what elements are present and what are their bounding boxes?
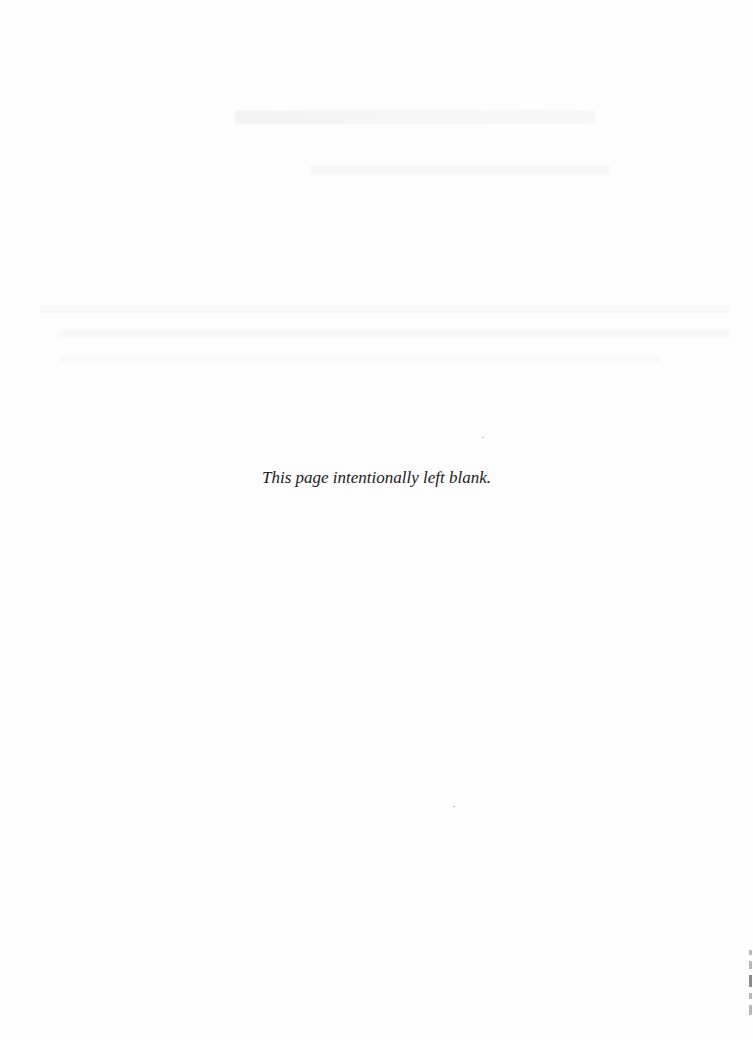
bleed-through-text: [40, 305, 730, 313]
intentionally-blank-notice: This page intentionally left blank.: [0, 468, 753, 488]
bleed-through-text: [60, 330, 730, 338]
bleed-through-text: [60, 355, 660, 363]
scan-speck: [482, 437, 484, 438]
bleed-through-text: [310, 165, 610, 175]
scan-speck: [453, 806, 455, 807]
scan-edge-marks: [749, 950, 753, 1040]
bleed-through-text: [235, 110, 595, 124]
document-page: This page intentionally left blank.: [0, 0, 753, 1040]
